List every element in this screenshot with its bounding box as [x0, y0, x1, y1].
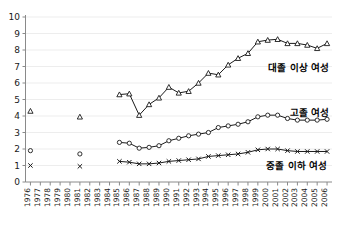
x-tick-label: 1988	[142, 188, 151, 207]
y-tick-label: 5	[14, 95, 20, 105]
x-tick-label: 1981	[73, 188, 82, 207]
y-tick-label: 0	[14, 177, 20, 187]
y-tick-label: 7	[14, 62, 20, 72]
x-tick-label: 1980	[63, 188, 72, 207]
series-label-middleschool: 중졸 이하 여성	[266, 158, 327, 172]
x-tick-label: 1995	[211, 188, 220, 207]
x-tick-label: 1986	[122, 188, 131, 207]
y-tick-label: 6	[14, 78, 20, 88]
x-tick-label: 1987	[132, 188, 141, 207]
y-tick-label: 10	[9, 12, 21, 22]
x-tick-label: 2006	[320, 188, 329, 207]
y-tick-label: 4	[14, 111, 20, 121]
x-tick-label: 2001	[271, 188, 280, 207]
x-tick-label: 1999	[251, 188, 260, 207]
x-tick-label: 1985	[112, 188, 121, 207]
x-tick-label: 2005	[310, 188, 319, 207]
x-tick-label: 1994	[201, 188, 210, 207]
y-tick-label: 9	[14, 29, 20, 39]
x-tick-label: 1978	[43, 188, 52, 207]
x-tick-label: 1977	[33, 188, 42, 207]
x-tick-label: 1989	[152, 188, 161, 207]
y-tick-label: 1	[14, 161, 20, 171]
x-tick-label: 1983	[93, 188, 102, 207]
y-tick-label: 8	[14, 45, 20, 55]
x-tick-label: 1991	[172, 188, 181, 207]
x-tick-label: 1990	[162, 188, 171, 207]
x-tick-label: 1997	[231, 188, 240, 207]
x-tick-label: 2003	[290, 188, 299, 207]
x-tick-label: 1998	[241, 188, 250, 207]
line-chart: 0123456789101976197719781979198019811982…	[0, 0, 337, 228]
y-tick-label: 2	[14, 144, 20, 154]
x-tick-label: 2000	[261, 188, 270, 207]
chart-canvas: 0123456789101976197719781979198019811982…	[0, 0, 337, 228]
x-tick-label: 2002	[281, 188, 290, 207]
series-label-college: 대졸 이상 여성	[268, 60, 329, 74]
x-tick-label: 1993	[192, 188, 201, 207]
x-tick-label: 1976	[23, 188, 32, 207]
series-0	[28, 37, 330, 119]
x-tick-label: 2004	[300, 188, 309, 207]
x-tick-label: 1996	[221, 188, 230, 207]
series-label-highschool: 고졸 여성	[290, 105, 329, 119]
x-tick-label: 1984	[103, 188, 112, 207]
x-tick-label: 1982	[83, 188, 92, 207]
y-tick-label: 3	[14, 128, 20, 138]
x-tick-label: 1979	[53, 188, 62, 207]
x-tick-label: 1992	[182, 188, 191, 207]
